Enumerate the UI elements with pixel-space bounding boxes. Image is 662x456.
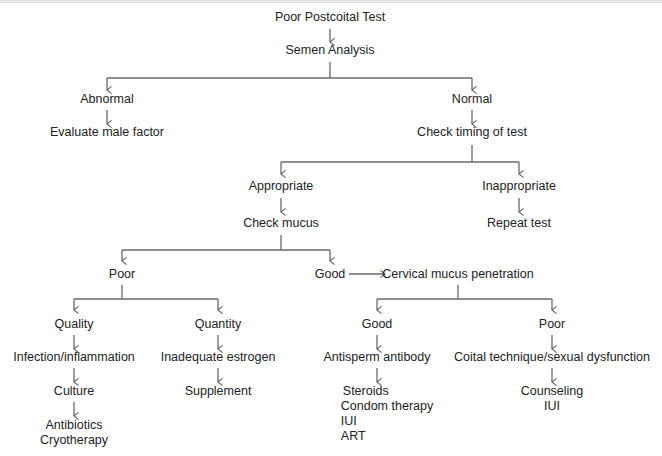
node-coital-treatments: Counseling IUI <box>521 384 584 414</box>
node-quality: Quality <box>55 317 94 332</box>
node-evaluate-male-factor: Evaluate male factor <box>50 125 164 140</box>
node-infection-treatments: Antibiotics Cryotherapy <box>40 418 108 448</box>
treatment-antibiotics: Antibiotics <box>40 418 108 433</box>
treatment-condom-therapy: Condom therapy <box>341 399 433 414</box>
node-repeat-test: Repeat test <box>487 216 551 231</box>
node-poor-penetration: Poor <box>539 317 565 332</box>
node-coital-technique: Coital technique/sexual dysfunction <box>454 350 650 365</box>
treatment-counseling: Counseling <box>521 384 584 399</box>
treatment-art: ART <box>341 429 433 444</box>
treatment-iui-coital: IUI <box>521 399 584 414</box>
node-abnormal: Abnormal <box>80 92 134 107</box>
node-poor-postcoital-test: Poor Postcoital Test <box>275 10 385 25</box>
node-supplement: Supplement <box>185 384 252 399</box>
node-good-penetration: Good <box>362 317 393 332</box>
node-normal: Normal <box>452 92 492 107</box>
node-inadequate-estrogen: Inadequate estrogen <box>161 350 276 365</box>
treatment-iui: IUI <box>341 414 433 429</box>
node-appropriate: Appropriate <box>249 179 314 194</box>
node-antisperm-antibody: Antisperm antibody <box>323 350 430 365</box>
node-check-mucus: Check mucus <box>243 216 319 231</box>
node-infection-inflammation: Infection/inflammation <box>13 350 135 365</box>
node-semen-analysis: Semen Analysis <box>286 43 375 58</box>
node-cervical-mucus-penetration: Cervical mucus penetration <box>382 267 533 282</box>
node-good-mucus: Good <box>315 267 346 282</box>
node-culture: Culture <box>54 384 94 399</box>
node-poor-mucus: Poor <box>109 267 135 282</box>
treatment-cryotherapy: Cryotherapy <box>40 433 108 448</box>
node-antisperm-treatments: Steroids Condom therapy IUI ART <box>341 384 433 444</box>
treatment-steroids: Steroids <box>341 384 433 399</box>
node-inappropriate: Inappropriate <box>482 179 556 194</box>
node-quantity: Quantity <box>195 317 242 332</box>
node-check-timing: Check timing of test <box>417 125 527 140</box>
